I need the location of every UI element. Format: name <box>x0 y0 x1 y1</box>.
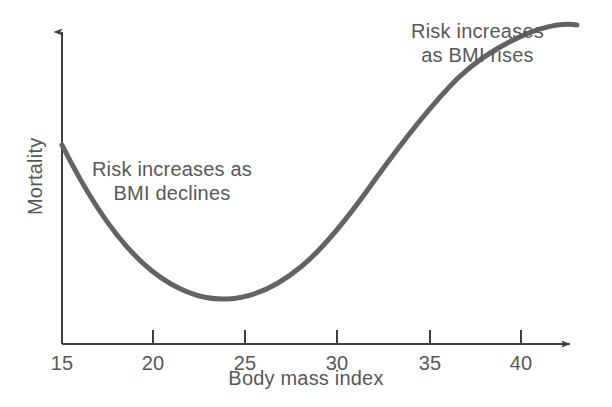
mortality-bmi-chart: 15 20 25 30 35 40 Body mass index Mortal… <box>0 0 612 407</box>
annotation-bmi-rises: Risk increases as BMI rises <box>400 19 555 67</box>
y-axis-title: Mortality <box>24 138 47 215</box>
annotation-right-line-1: Risk increases <box>400 19 555 43</box>
x-axis-title: Body mass index <box>0 367 612 390</box>
annotation-left-line-2: BMI declines <box>82 181 262 205</box>
annotation-right-line-2: as BMI rises <box>400 43 555 67</box>
annotation-bmi-declines: Risk increases as BMI declines <box>82 157 262 205</box>
x-axis-ticks <box>153 330 521 344</box>
annotation-left-line-1: Risk increases as <box>82 157 262 181</box>
